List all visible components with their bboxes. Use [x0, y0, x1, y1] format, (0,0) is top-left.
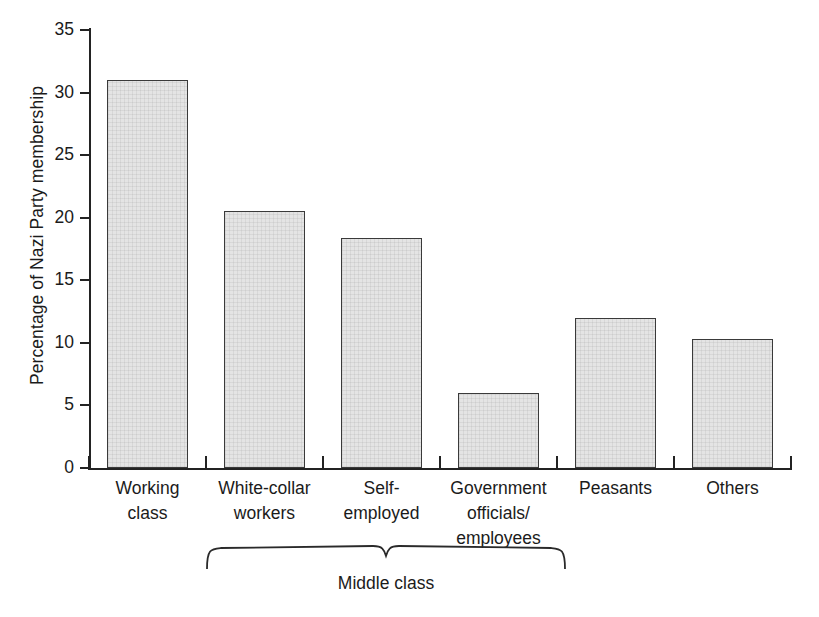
- x-axis-category-label: Governmentofficials/employees: [432, 476, 565, 551]
- y-tick-label: 35: [14, 21, 74, 39]
- y-tick-label: 20: [14, 209, 74, 227]
- y-tick-mark: [80, 154, 89, 156]
- x-axis-category-label: Workingclass: [81, 476, 214, 526]
- x-tick-mark: [790, 456, 792, 470]
- x-axis-category-label-line: Others: [666, 476, 799, 501]
- y-axis-line: [89, 28, 91, 470]
- brace-icon: [205, 543, 567, 569]
- x-tick-mark: [322, 456, 324, 470]
- x-tick-mark: [205, 456, 207, 470]
- y-tick-mark: [80, 217, 89, 219]
- x-axis-category-label: Self-employed: [315, 476, 448, 526]
- y-tick-label: 30: [14, 84, 74, 102]
- y-tick-label: 15: [14, 271, 74, 289]
- x-axis-category-label-line: Working: [81, 476, 214, 501]
- bar: [458, 393, 538, 468]
- y-tick-mark: [80, 342, 89, 344]
- bar: [575, 318, 655, 468]
- y-tick-label: 0: [14, 459, 74, 477]
- y-tick-label: 5: [14, 396, 74, 414]
- x-axis-category-label: White-collarworkers: [198, 476, 331, 526]
- y-tick-mark: [80, 279, 89, 281]
- y-tick-label: 25: [14, 146, 74, 164]
- y-tick-mark: [80, 404, 89, 406]
- bar: [341, 238, 421, 468]
- bar: [692, 339, 772, 468]
- y-tick-mark: [80, 92, 89, 94]
- x-tick-mark: [556, 456, 558, 470]
- bar: [107, 80, 187, 468]
- x-axis-category-label: Others: [666, 476, 799, 501]
- middle-class-brace: [205, 543, 567, 569]
- x-axis-category-label-line: officials/: [432, 501, 565, 526]
- y-tick-mark: [80, 29, 89, 31]
- x-axis-category-label: Peasants: [549, 476, 682, 501]
- x-axis-category-label-line: Self-: [315, 476, 448, 501]
- x-tick-mark: [439, 456, 441, 470]
- x-tick-mark: [88, 456, 90, 470]
- y-axis-title: Percentage of Nazi Party membership: [27, 16, 48, 456]
- x-axis-category-label-line: class: [81, 501, 214, 526]
- x-axis-category-label-line: White-collar: [198, 476, 331, 501]
- bar: [224, 211, 304, 468]
- x-axis-category-label-line: employed: [315, 501, 448, 526]
- x-axis-category-label-line: workers: [198, 501, 331, 526]
- bar-chart: Percentage of Nazi Party membership 0510…: [0, 0, 819, 617]
- group-label-middle-class: Middle class: [205, 573, 567, 594]
- y-tick-label: 10: [14, 334, 74, 352]
- x-axis-category-label-line: Government: [432, 476, 565, 501]
- x-tick-mark: [673, 456, 675, 470]
- x-axis-category-label-line: Peasants: [549, 476, 682, 501]
